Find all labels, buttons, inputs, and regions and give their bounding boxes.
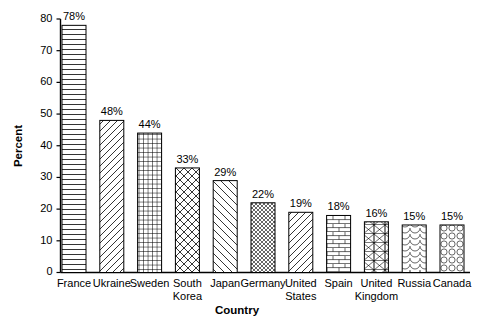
y-tick-label: 80 — [40, 12, 52, 24]
bar-value-label: 48% — [101, 105, 123, 117]
bar — [100, 120, 124, 272]
chart-canvas: 01020304050607080 Percent Country 78%48%… — [0, 0, 479, 326]
x-axis-category-label: France — [57, 277, 91, 289]
bar — [364, 222, 388, 273]
bar — [138, 133, 162, 272]
bar — [62, 25, 86, 272]
bar — [175, 168, 199, 273]
x-axis-category-label: Germany — [240, 277, 286, 289]
bar-value-label: 19% — [290, 197, 312, 209]
x-axis-category-label: UnitedKingdom — [355, 277, 398, 302]
y-axis-title: Percent — [12, 125, 24, 167]
bar — [440, 225, 464, 273]
y-tick-label: 60 — [40, 75, 52, 87]
y-tick-label: 30 — [40, 170, 52, 182]
bar-value-label: 16% — [365, 207, 387, 219]
y-tick-label: 10 — [40, 234, 52, 246]
x-axis-category-labels: FranceUkraineSwedenSouthKoreaJapanGerman… — [57, 277, 472, 302]
bar-series — [62, 25, 464, 272]
bar-value-label: 18% — [328, 200, 350, 212]
bar-value-label: 15% — [403, 210, 425, 222]
y-tick-label: 20 — [40, 202, 52, 214]
x-axis-category-label: SouthKorea — [173, 277, 203, 302]
y-axis: 01020304050607080 Percent — [12, 12, 61, 278]
x-axis-category-label: Ukraine — [93, 277, 131, 289]
bar-value-label: 22% — [252, 188, 274, 200]
bar — [213, 181, 237, 273]
x-axis-category-label: Russia — [397, 277, 432, 289]
x-axis-title: Country — [215, 304, 260, 316]
bar — [289, 212, 313, 272]
bar-value-label: 78% — [63, 10, 85, 22]
y-tick-label: 0 — [46, 265, 52, 277]
bar-value-label: 15% — [441, 210, 463, 222]
y-axis-ticks: 01020304050607080 — [40, 12, 60, 278]
y-tick-label: 40 — [40, 139, 52, 151]
bar — [327, 215, 351, 272]
x-axis-category-label: UnitedStates — [285, 277, 317, 302]
bar-value-label: 33% — [176, 153, 198, 165]
x-axis-category-label: Japan — [210, 277, 240, 289]
bar — [251, 203, 275, 273]
bar-value-label: 44% — [139, 118, 161, 130]
x-axis-category-label: Canada — [433, 277, 472, 289]
x-axis-category-label: Spain — [325, 277, 353, 289]
bar-chart-figure: 01020304050607080 Percent Country 78%48%… — [0, 0, 479, 326]
y-tick-label: 50 — [40, 107, 52, 119]
bar-value-label: 29% — [214, 166, 236, 178]
bar — [402, 225, 426, 273]
y-tick-label: 70 — [40, 44, 52, 56]
x-axis-category-label: Sweden — [130, 277, 170, 289]
